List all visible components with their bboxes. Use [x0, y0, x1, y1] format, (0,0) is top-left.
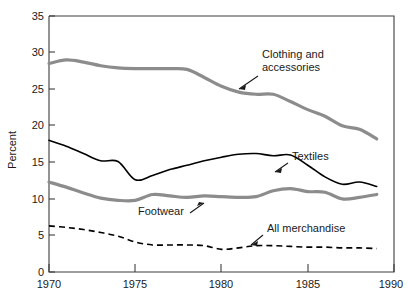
xtick-label-1970: 1970 — [37, 278, 61, 290]
y-axis-title: Percent — [6, 131, 18, 169]
series-line-textiles — [49, 140, 377, 186]
xtick-label-1980: 1980 — [209, 278, 233, 290]
xtick-label-1985: 1985 — [296, 278, 320, 290]
ytick-label-35: 35 — [32, 10, 44, 22]
annotation-label-clothing-line1: Clothing and — [262, 48, 324, 60]
annotation-arrowhead-clothing — [239, 85, 246, 90]
series-line-clothing-and-accessories — [49, 60, 377, 139]
ytick-label-15: 15 — [32, 156, 44, 168]
chart-page: 35 30 25 20 15 10 5 0 1970 1975 1980 198… — [0, 0, 408, 301]
series-line-footwear — [49, 182, 377, 201]
line-chart: 35 30 25 20 15 10 5 0 1970 1975 1980 198… — [0, 0, 408, 301]
annotation-label-all-merchandise: All merchandise — [267, 222, 345, 234]
ytick-label-5: 5 — [38, 229, 44, 241]
annotation-arrow-textiles — [275, 163, 288, 172]
ytick-label-0: 0 — [38, 266, 44, 278]
xtick-label-1975: 1975 — [123, 278, 147, 290]
annotation-arrow-footwear — [190, 203, 204, 213]
annotation-label-clothing-line2: accessories — [262, 61, 321, 73]
ytick-label-30: 30 — [32, 46, 44, 58]
ytick-label-25: 25 — [32, 83, 44, 95]
annotation-label-textiles: Textiles — [292, 150, 329, 162]
annotation-label-footwear: Footwear — [138, 205, 184, 217]
ytick-label-20: 20 — [32, 119, 44, 131]
ytick-label-10: 10 — [32, 193, 44, 205]
annotation-arrow-clothing — [239, 76, 258, 89]
xtick-label-1990: 1990 — [379, 278, 403, 290]
annotation-arrowhead-textiles — [275, 168, 282, 173]
